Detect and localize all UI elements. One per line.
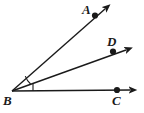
point-label-b: B — [3, 94, 12, 107]
point-a-dot — [92, 12, 98, 18]
point-d-dot — [110, 48, 116, 54]
point-label-a: A — [82, 3, 91, 16]
ray-bc-line — [12, 90, 130, 91]
point-label-d: D — [107, 35, 116, 48]
geometry-diagram: A B C D — [0, 0, 144, 113]
geometry-canvas — [0, 0, 144, 113]
point-label-c: C — [112, 94, 121, 107]
ray-bd-line — [12, 50, 126, 91]
